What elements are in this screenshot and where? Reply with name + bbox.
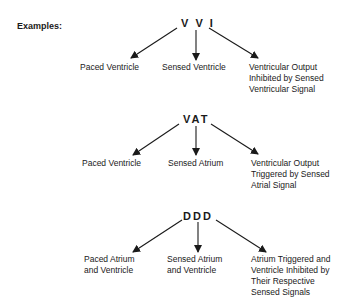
label-sensed: Sensed Atrium and Ventricle — [167, 254, 222, 276]
mode-code-vat: VAT — [183, 113, 209, 125]
arrow-icon — [133, 124, 179, 155]
label-sensed: Sensed Atrium — [168, 158, 223, 169]
arrow-icon — [133, 220, 182, 252]
label-paced: Paced Ventricle — [82, 158, 141, 169]
arrow-icon — [211, 124, 258, 154]
mode-code-ddd: DDD — [183, 210, 213, 222]
label-response: Ventricular Output Triggered by Sensed A… — [251, 158, 330, 191]
arrow-icon — [216, 220, 266, 252]
label-response: Atrium Triggered and Ventricle Inhibited… — [251, 254, 330, 298]
label-paced: Paced Atrium and Ventricle — [84, 254, 135, 276]
label-response: Ventricular Output Inhibited by Sensed V… — [249, 62, 324, 95]
label-paced: Paced Ventricle — [80, 62, 139, 73]
arrow-icon — [131, 28, 177, 58]
label-sensed: Sensed Ventricle — [162, 62, 226, 73]
arrow-icon — [209, 28, 258, 58]
mode-code-vvi: V V I — [181, 17, 215, 29]
